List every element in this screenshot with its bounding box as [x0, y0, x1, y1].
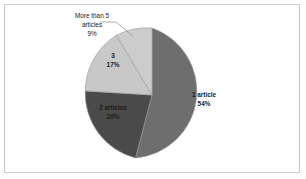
- slice-value-2-articles: 20%: [107, 113, 120, 120]
- callout-label-more-than-5-line2: articles: [82, 21, 102, 28]
- chart-frame: 1 article 54% 2 articles 20% 3 17% More …: [0, 0, 306, 179]
- slice-value-1-article: 54%: [198, 100, 211, 107]
- callout-label-more-than-5-line1: More than 5: [75, 12, 110, 19]
- slice-value-3: 17%: [107, 61, 120, 68]
- pie-chart-plot-area: 1 article 54% 2 articles 20% 3 17% More …: [0, 0, 306, 179]
- callout-value-more-than-5: 9%: [87, 30, 97, 37]
- slice-label-2-articles: 2 articles: [99, 104, 127, 111]
- slice-label-1-article: 1 article: [192, 91, 217, 98]
- slice-label-3: 3: [111, 52, 115, 59]
- pie-chart-svg: 1 article 54% 2 articles 20% 3 17% More …: [0, 0, 306, 179]
